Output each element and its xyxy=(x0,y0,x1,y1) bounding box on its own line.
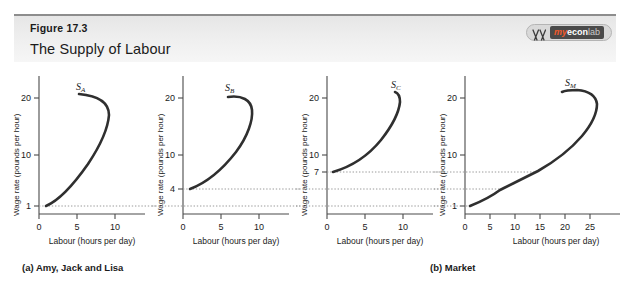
figure-container: Figure 17.3 The Supply of Labour my econ… xyxy=(0,0,630,290)
x-axis-label: Labour (hours per day) xyxy=(49,236,136,246)
x-tick-label-0: 0 xyxy=(36,222,41,232)
chart-supply-lisa: Wage rate (pounds per hour) 20 10 7 0 5 … xyxy=(296,66,444,248)
y-tick-label-1: 1 xyxy=(26,201,31,211)
x-tick-label-10: 10 xyxy=(398,222,408,232)
x-tick-label-5: 5 xyxy=(74,222,79,232)
brand-word-my: my xyxy=(554,27,567,38)
x-axis-label: Labour (hours per day) xyxy=(513,236,600,246)
x-tick-label-0: 0 xyxy=(324,222,329,232)
page-title: The Supply of Labour xyxy=(30,41,171,57)
y-tick-label-20: 20 xyxy=(21,93,31,103)
x-tick-label-25: 25 xyxy=(585,222,595,232)
y-axis-label: Wage rate (pounds per hour) xyxy=(438,113,447,216)
y-tick-label-7: 7 xyxy=(314,167,319,177)
y-tick-label-10: 10 xyxy=(165,150,175,160)
x-tick-label-5: 5 xyxy=(218,222,223,232)
x-tick-label-0: 0 xyxy=(180,222,185,232)
chart-supply-market: Wage rate (pounds per hour) 20 10 1 0 5 … xyxy=(434,66,626,248)
y-tick-label-10: 10 xyxy=(309,150,319,160)
x-axis-label: Labour (hours per day) xyxy=(337,236,424,246)
chart-supply-jack: Wage rate (pounds per hour) 20 10 4 0 5 … xyxy=(152,66,300,248)
x-tick-label-5: 5 xyxy=(362,222,367,232)
y-tick-label-20: 20 xyxy=(309,93,319,103)
x-tick-label-0: 0 xyxy=(462,222,467,232)
myeconlab-badge[interactable]: my econ lab xyxy=(526,24,612,41)
y-tick-label-20: 20 xyxy=(165,93,175,103)
y-tick-label-4: 4 xyxy=(170,184,175,194)
myeconlab-wordmark: my econ lab xyxy=(550,26,604,39)
supply-curve-amy xyxy=(46,94,109,206)
curve-label-sa: SA xyxy=(76,81,86,94)
x-tick-label-20: 20 xyxy=(560,222,570,232)
myeconlab-x-mark xyxy=(532,27,546,39)
curve-label-sc: SC xyxy=(391,79,401,92)
y-tick-label-10: 10 xyxy=(447,150,457,160)
y-axis-label: Wage rate (pounds per hour) xyxy=(156,113,165,216)
x-tick-label-10: 10 xyxy=(510,222,520,232)
curve-label-sm: SM xyxy=(565,77,577,90)
y-tick-label-20: 20 xyxy=(447,93,457,103)
x-tick-label-10: 10 xyxy=(254,222,264,232)
supply-curve-jack xyxy=(190,97,252,189)
caption-panel-a: (a) Amy, Jack and Lisa xyxy=(22,262,123,273)
caption-panel-b: (b) Market xyxy=(430,262,475,273)
y-tick-label-10: 10 xyxy=(21,150,31,160)
x-tick-label-10: 10 xyxy=(110,222,120,232)
x-tick-label-15: 15 xyxy=(535,222,545,232)
brand-word-econ: econ xyxy=(567,27,588,38)
supply-curve-lisa xyxy=(333,92,400,172)
x-tick-label-5: 5 xyxy=(487,222,492,232)
chart-supply-amy: Wage rate (pounds per hour) 20 10 1 0 5 … xyxy=(8,66,156,248)
y-axis-label: Wage rate (pounds per hour) xyxy=(12,113,21,216)
y-axis-label: Wage rate (pounds per hour) xyxy=(300,113,309,216)
x-axis-label: Labour (hours per day) xyxy=(193,236,280,246)
figure-number: Figure 17.3 xyxy=(30,22,88,34)
brand-word-lab: lab xyxy=(588,27,600,38)
curve-label-sb: SB xyxy=(225,82,235,95)
